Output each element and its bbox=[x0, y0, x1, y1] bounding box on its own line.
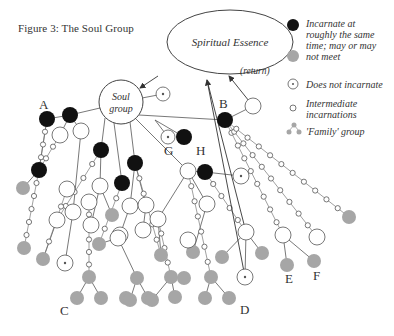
intermediate-node bbox=[59, 181, 75, 197]
family-node bbox=[164, 270, 178, 284]
legend-small-circle-icon bbox=[290, 105, 296, 111]
intermediate-node bbox=[83, 217, 99, 233]
intermediate-node bbox=[199, 196, 215, 212]
edge-line bbox=[73, 131, 81, 212]
intermediate-incarnation-node bbox=[141, 191, 146, 196]
intermediate-node bbox=[138, 197, 154, 213]
family-node bbox=[154, 248, 168, 262]
intermediate-incarnation-node bbox=[154, 237, 159, 242]
family-node bbox=[94, 291, 108, 305]
intermediate-incarnation-node bbox=[165, 260, 170, 265]
family-node bbox=[342, 210, 356, 224]
intermediate-incarnation-node bbox=[335, 206, 340, 211]
intermediate-incarnation-node bbox=[250, 153, 255, 158]
intermediate-node bbox=[135, 222, 151, 238]
edge-line bbox=[139, 115, 225, 120]
legend-gray-dot-icon bbox=[287, 50, 299, 62]
intermediate-incarnation-node bbox=[267, 153, 272, 158]
incarnate-node bbox=[31, 162, 47, 178]
intermediate-incarnation-node bbox=[46, 239, 51, 244]
soul-group-label-line2: group bbox=[109, 103, 133, 114]
incarnate-node bbox=[127, 155, 143, 171]
family-node bbox=[255, 246, 269, 260]
intermediate-node bbox=[309, 229, 325, 245]
intermediate-node bbox=[122, 198, 138, 214]
incarnate-node bbox=[176, 129, 192, 145]
intermediate-incarnation-node bbox=[29, 206, 34, 211]
intermediate-incarnation-node bbox=[90, 161, 95, 166]
family-node bbox=[70, 291, 84, 305]
intermediate-incarnation-node bbox=[324, 197, 329, 202]
intermediate-incarnation-node bbox=[114, 196, 119, 201]
intermediate-incarnation-node bbox=[255, 181, 260, 186]
intermediate-incarnation-node bbox=[261, 194, 266, 199]
soul-group-label-line1: Soul bbox=[112, 91, 130, 102]
incarnate-node bbox=[39, 111, 55, 127]
intermediate-node bbox=[65, 204, 81, 220]
legend-text-target: Does not incarnate bbox=[306, 79, 383, 90]
intermediate-incarnation-node bbox=[58, 204, 63, 209]
intermediate-incarnation-node bbox=[86, 249, 91, 254]
intermediate-node bbox=[92, 178, 108, 194]
intermediate-incarnation-node bbox=[268, 207, 273, 212]
return-label: (return) bbox=[240, 66, 270, 77]
legend-family-cluster-icon bbox=[287, 123, 302, 135]
incarnate-node bbox=[197, 164, 213, 180]
intermediate-incarnation-node bbox=[305, 223, 310, 228]
family-node bbox=[123, 293, 137, 307]
intermediate-incarnation-node bbox=[202, 244, 207, 249]
intermediate-incarnation-node bbox=[102, 226, 107, 231]
intermediate-node bbox=[110, 230, 126, 246]
node-label-f: F bbox=[313, 268, 320, 283]
family-node bbox=[82, 270, 96, 284]
intermediate-incarnation-node bbox=[205, 259, 210, 264]
intermediate-incarnation-node bbox=[50, 144, 55, 149]
intermediate-incarnation-node bbox=[259, 164, 264, 169]
intermediate-incarnation-node bbox=[268, 176, 273, 181]
intermediate-incarnation-node bbox=[26, 219, 31, 224]
incarnate-node bbox=[217, 112, 233, 128]
family-node bbox=[177, 271, 191, 285]
intermediate-incarnation-node bbox=[242, 156, 247, 161]
node-label-c: C bbox=[60, 303, 69, 318]
intermediate-incarnation-node bbox=[278, 188, 283, 193]
node-label-e: E bbox=[285, 271, 293, 286]
intermediate-incarnation-node bbox=[195, 214, 200, 219]
family-node bbox=[215, 250, 229, 264]
family-node bbox=[105, 208, 119, 222]
intermediate-node bbox=[275, 227, 291, 243]
legend-text-black: Incarnate at roughly the same time; may … bbox=[306, 18, 376, 62]
intermediate-node bbox=[49, 212, 65, 228]
target-dot-icon bbox=[244, 276, 246, 278]
intermediate-incarnation-node bbox=[313, 188, 318, 193]
intermediate-incarnation-node bbox=[137, 176, 142, 181]
intermediate-incarnation-node bbox=[296, 211, 301, 216]
intermediate-incarnation-node bbox=[86, 237, 91, 242]
intermediate-incarnation-node bbox=[159, 231, 164, 236]
intermediate-node bbox=[81, 194, 97, 210]
intermediate-incarnation-node bbox=[279, 161, 284, 166]
intermediate-incarnation-node bbox=[211, 181, 216, 186]
intermediate-incarnation-node bbox=[86, 212, 91, 217]
intermediate-incarnation-node bbox=[248, 169, 253, 174]
intermediate-node bbox=[180, 163, 196, 179]
node-label-h: H bbox=[196, 143, 205, 158]
family-node bbox=[145, 293, 159, 307]
family-node bbox=[16, 181, 30, 195]
intermediate-incarnation-node bbox=[24, 232, 29, 237]
incarnate-node bbox=[62, 107, 78, 123]
incarnate-node bbox=[93, 142, 109, 158]
intermediate-incarnation-node bbox=[274, 220, 279, 225]
intermediate-incarnation-node bbox=[301, 179, 306, 184]
family-node bbox=[222, 291, 236, 305]
intermediate-incarnation-node bbox=[40, 142, 45, 147]
spiritual-essence-label: Spiritual Essence bbox=[192, 36, 269, 48]
family-node bbox=[17, 241, 31, 255]
intermediate-incarnation-node bbox=[189, 184, 194, 189]
legend-black-dot-icon bbox=[287, 19, 299, 31]
node-label-g: G bbox=[164, 143, 173, 158]
node-label-b: B bbox=[219, 96, 228, 111]
essence-to-soul-arrow bbox=[140, 76, 158, 88]
incarnate-node bbox=[114, 175, 130, 191]
target-dot-icon bbox=[64, 262, 66, 264]
